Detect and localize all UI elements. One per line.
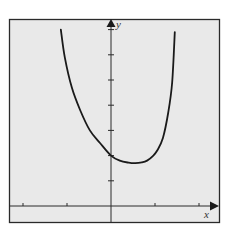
y-axis-label: y <box>115 18 121 30</box>
function-graph: y x <box>0 0 228 237</box>
plot-frame <box>10 20 220 223</box>
x-axis-label: x <box>203 208 209 220</box>
